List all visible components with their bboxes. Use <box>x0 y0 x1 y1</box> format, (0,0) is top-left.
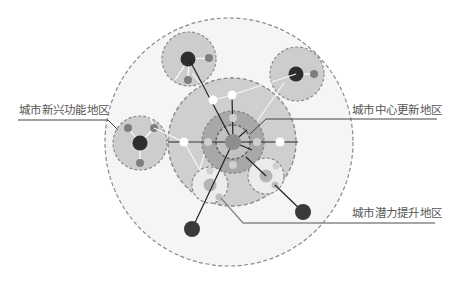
mid-node-icon <box>205 54 213 62</box>
light-node-icon <box>273 163 280 170</box>
mid-node-icon <box>150 124 158 132</box>
white-node-icon <box>228 91 237 100</box>
light-node-icon <box>253 138 261 146</box>
dark-node-icon <box>181 52 196 67</box>
satellite-left <box>113 116 167 170</box>
mid-node-icon <box>184 76 192 84</box>
light-node-icon <box>207 168 214 175</box>
white-node-icon <box>180 138 189 147</box>
label-center-renewal-area: 城市中心更新地区 <box>352 101 442 117</box>
label-emerging-function-area: 城市新兴功能地区 <box>19 101 109 117</box>
mid-node-icon <box>136 159 144 167</box>
dark-node-icon <box>133 136 148 151</box>
white-node-icon <box>276 138 285 147</box>
urban-structure-diagram: 城市新兴功能地区 城市中心更新地区 城市潜力提升地区 <box>0 0 452 281</box>
leader-line-emerging <box>18 120 118 130</box>
light-node-icon <box>204 138 212 146</box>
mid-node-icon <box>310 70 318 78</box>
light-node-icon <box>229 161 237 169</box>
light-node-icon <box>229 114 237 122</box>
mid-node-icon <box>124 124 132 132</box>
satellite-top-right <box>270 47 324 101</box>
core-center-node-icon <box>225 134 241 150</box>
dark-node-icon <box>184 221 200 237</box>
dark-node-icon <box>295 204 311 220</box>
diagram-canvas <box>0 0 452 281</box>
satellite-bottom-left <box>192 167 228 203</box>
white-node-icon <box>209 96 218 105</box>
label-potential-upgrade-area: 城市潜力提升地区 <box>352 204 442 220</box>
